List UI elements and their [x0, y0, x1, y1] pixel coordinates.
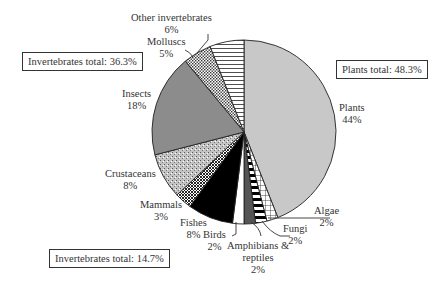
- pie-slices: [152, 40, 336, 224]
- invertebrates-total-upper-box: Invertebrates total: 36.3%: [22, 52, 143, 71]
- label-fungi: Fungi 2%: [283, 223, 308, 247]
- label-birds: Birds 2%: [203, 229, 226, 253]
- label-molluscs: Molluscs 5%: [147, 36, 186, 60]
- invertebrates-total-lower-text: Invertebrates total: 14.7%: [55, 253, 164, 264]
- label-mammals: Mammals 3%: [140, 199, 182, 223]
- plants-total-box: Plants total: 48.3%: [336, 60, 428, 79]
- label-crustaceans: Crustaceans 8%: [105, 168, 156, 192]
- invertebrates-total-upper-text: Invertebrates total: 36.3%: [28, 56, 137, 67]
- label-plants: Plants 44%: [339, 102, 365, 126]
- label-other-invertebrates: Other invertebrates 6%: [131, 12, 212, 36]
- label-algae: Algae 2%: [314, 205, 339, 229]
- plants-total-text: Plants total: 48.3%: [342, 64, 422, 75]
- invertebrates-total-lower-box: Invertebrates total: 14.7%: [49, 249, 170, 268]
- label-insects: Insects 18%: [122, 88, 151, 112]
- label-amphibians-reptiles: Amphibians & reptiles 2%: [227, 240, 289, 276]
